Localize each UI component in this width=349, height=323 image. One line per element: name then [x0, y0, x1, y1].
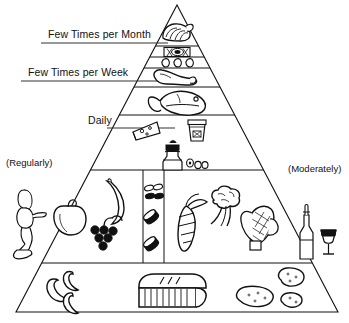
- label-daily: Daily: [88, 114, 112, 126]
- eggs-group: [162, 59, 193, 67]
- food-pyramid-diagram: Few Times per Month Few Times per Week D…: [0, 0, 349, 323]
- egg-icon: [186, 59, 193, 67]
- wine-bottle-and-glass-icon: [300, 205, 336, 260]
- label-few-times-per-month: Few Times per Month: [48, 28, 151, 40]
- yogurt-container-icon: [188, 120, 206, 141]
- egg-icon: [174, 59, 181, 67]
- exercising-person-icon: [14, 190, 47, 259]
- label-few-times-per-week: Few Times per Week: [28, 66, 128, 78]
- pastry-icon: [163, 24, 193, 41]
- egg-icon: [162, 59, 169, 67]
- bread-loaf-icon: [139, 274, 206, 307]
- label-regularly: (Regularly): [6, 157, 52, 168]
- meat-cut-icon: [164, 48, 190, 57]
- label-moderately: (Moderately): [288, 163, 341, 174]
